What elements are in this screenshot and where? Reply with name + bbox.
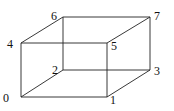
vertex-label-5: 5 [111, 39, 117, 53]
cube-diagram: 01234567 [0, 0, 174, 111]
vertex-label-0: 0 [3, 91, 9, 105]
vertex-label-7: 7 [154, 9, 160, 23]
vertex-label-6: 6 [51, 9, 57, 23]
vertex-labels: 01234567 [3, 9, 160, 107]
vertex-label-4: 4 [7, 37, 13, 51]
vertex-label-2: 2 [52, 63, 58, 77]
vertex-label-3: 3 [154, 64, 160, 78]
vertex-label-1: 1 [110, 93, 116, 107]
cube-edges [21, 17, 150, 97]
